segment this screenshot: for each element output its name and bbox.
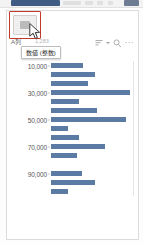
chart-bar (51, 144, 105, 149)
chart-bar (51, 108, 97, 113)
chart-y-tick-label: 50,000 (28, 116, 47, 123)
chart-y-tick-label: 70,000 (28, 143, 47, 150)
chart-y-tick-mark (48, 92, 50, 93)
ribbon-group-2[interactable] (85, 1, 93, 5)
chart-bar (51, 126, 68, 131)
profile-panel-root: A列 1,283 ··· 数値 (整数) 10 (0, 0, 143, 245)
column-profile-card: A列 1,283 ··· 数値 (整数) 10 (6, 10, 139, 240)
chart-y-tick-mark (48, 65, 50, 66)
chart-y-tick-label: 90,000 (28, 170, 47, 177)
chart-y-tick-mark (48, 119, 50, 120)
chart-bar (51, 81, 88, 86)
more-options-icon[interactable]: ··· (125, 40, 135, 46)
ribbon-strip (0, 0, 143, 8)
ribbon-right-control[interactable] (124, 0, 139, 6)
chart-bar (51, 63, 83, 68)
chevron-down-icon[interactable] (106, 42, 110, 44)
field-name-label: A列 (11, 37, 21, 46)
chart-bar (51, 90, 130, 95)
chart-y-tick-label: 30,000 (28, 89, 47, 96)
chart-bar (51, 180, 95, 185)
data-type-tooltip: 数値 (整数) (21, 46, 61, 59)
chart-y-tick-label: 10,000 (28, 62, 47, 69)
chart-plot-area (51, 61, 134, 196)
chart-bar (51, 135, 79, 140)
filter-sort-icon[interactable] (95, 39, 103, 47)
field-row-count: 1,283 (35, 38, 49, 44)
chart-bar (51, 171, 82, 176)
ribbon-group-3[interactable] (97, 1, 103, 5)
plot-right-border (133, 61, 134, 196)
ribbon-active-tab[interactable] (11, 0, 60, 6)
chart-bar (51, 153, 77, 158)
chart-y-axis: 10,00030,00050,00070,00090,000 (7, 61, 51, 196)
ribbon-group-4[interactable] (108, 1, 113, 5)
card-header: A列 1,283 ··· (7, 11, 138, 47)
search-icon[interactable] (113, 39, 122, 48)
chart-bar (51, 99, 79, 104)
chart-bar (51, 189, 68, 194)
ribbon-group-1[interactable] (63, 1, 81, 5)
chart-bar (51, 117, 126, 122)
chart-bar (51, 72, 95, 77)
card-header-icons: ··· (95, 37, 135, 49)
distribution-chart: 10,00030,00050,00070,00090,000 (7, 61, 138, 196)
chart-y-tick-mark (48, 146, 50, 147)
chart-y-tick-mark (48, 173, 50, 174)
